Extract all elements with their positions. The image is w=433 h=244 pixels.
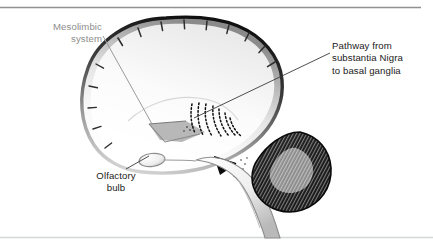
label-mesolimbic-line1: Mesolimbic bbox=[22, 21, 102, 33]
figure-panel: Mesolimbic system Pathway from substanti… bbox=[0, 0, 433, 244]
label-mesolimbic-line2: system bbox=[22, 33, 102, 45]
label-olfactory-line2: bulb bbox=[70, 182, 162, 194]
label-mesolimbic-system: Mesolimbic system bbox=[22, 21, 102, 46]
cerebellum bbox=[252, 132, 331, 212]
label-pathway-line2: substantia Nigra bbox=[332, 52, 403, 64]
label-pathway-substantia-nigra: Pathway from substantia Nigra to basal g… bbox=[332, 40, 403, 77]
label-pathway-line3: to basal ganglia bbox=[332, 65, 403, 77]
label-pathway-line1: Pathway from bbox=[332, 40, 403, 52]
label-olfactory-line1: Olfactory bbox=[70, 170, 162, 182]
label-olfactory-bulb: Olfactory bulb bbox=[70, 170, 162, 195]
cerebral-cortex bbox=[82, 17, 283, 173]
